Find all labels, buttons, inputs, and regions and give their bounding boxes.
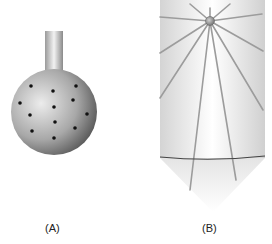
sphere	[11, 69, 97, 155]
dot	[52, 136, 56, 140]
dot	[74, 84, 78, 88]
panel-b	[160, 0, 265, 212]
dot	[52, 105, 56, 109]
dot	[51, 89, 55, 93]
stem	[45, 31, 63, 71]
figure	[0, 0, 272, 244]
dot	[73, 126, 77, 130]
dot	[85, 112, 89, 116]
dot	[71, 98, 75, 102]
label-a: (A)	[45, 222, 60, 234]
panel-a	[11, 31, 97, 155]
dot	[53, 120, 57, 124]
dot	[18, 101, 22, 105]
bead	[206, 17, 215, 26]
dot	[28, 113, 32, 117]
dot	[29, 84, 33, 88]
dot	[30, 129, 34, 133]
label-b: (B)	[202, 222, 217, 234]
cone-tip	[160, 158, 265, 212]
